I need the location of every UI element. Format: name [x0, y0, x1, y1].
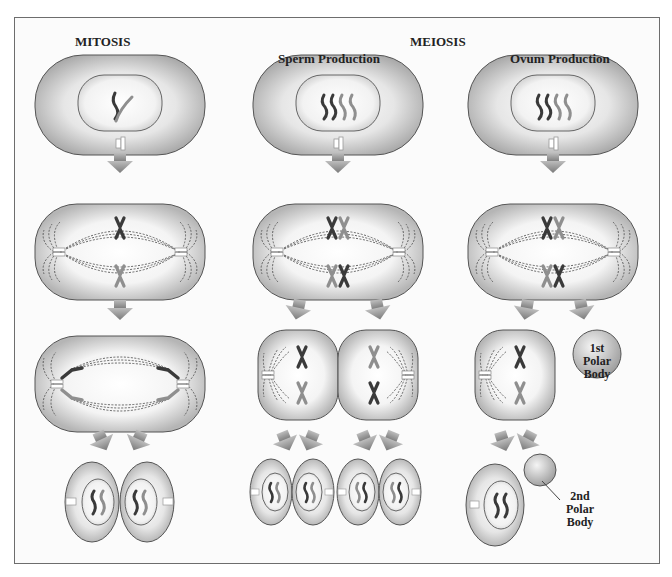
- arrow-down-icon: [283, 297, 313, 322]
- arrow-down-icon: [270, 427, 302, 455]
- mitosis-daughter-cell: [120, 462, 174, 542]
- arrow-down-icon: [512, 298, 541, 322]
- label-line: Body: [580, 368, 614, 381]
- arrow-down-icon: [325, 153, 351, 173]
- ovum-cell: [466, 464, 524, 546]
- second-polar-body-label: 2nd Polar Body: [560, 490, 600, 529]
- meiosis-heading: MEIOSIS: [410, 34, 466, 50]
- mitosis-daughter-cell: [65, 462, 119, 542]
- arrow-down-icon: [107, 153, 133, 173]
- ovum-production-heading: Ovum Production: [510, 51, 610, 67]
- sperm-meiosis2-cell-left: [258, 330, 338, 420]
- spermatid-cell: [337, 459, 379, 525]
- spermatid-cell: [250, 459, 292, 525]
- arrow-down-icon: [363, 297, 393, 322]
- second-polar-body: [524, 454, 556, 486]
- mitosis-column: [35, 55, 205, 542]
- arrow-down-icon: [374, 427, 406, 455]
- arrow-down-icon: [488, 428, 519, 455]
- spermatid-cell: [379, 459, 421, 525]
- ovum-production-column: [466, 55, 638, 546]
- mitosis-interphase-cell: [35, 55, 205, 155]
- ovum-metaphase-cell: [468, 204, 638, 300]
- sperm-meiosis2-cell-right: [338, 330, 418, 420]
- sperm-production-heading: Sperm Production: [278, 51, 380, 67]
- label-line: Body: [560, 516, 600, 529]
- mitosis-anaphase-cell: [35, 336, 205, 432]
- first-polar-body-label: 1st Polar Body: [580, 342, 614, 381]
- arrow-down-icon: [294, 427, 326, 455]
- mitosis-heading: MITOSIS: [75, 34, 130, 50]
- mitosis-metaphase-cell: [35, 204, 205, 300]
- arrow-down-icon: [107, 300, 133, 320]
- sperm-interphase-cell: [253, 55, 423, 155]
- arrow-down-icon: [511, 426, 543, 456]
- arrow-down-icon: [350, 427, 382, 455]
- arrow-down-icon: [540, 153, 566, 173]
- spermatid-cell: [292, 459, 334, 525]
- secondary-oocyte-cell: [475, 330, 555, 420]
- sperm-production-column: [250, 55, 423, 525]
- ovum-interphase-cell: [468, 55, 638, 155]
- arrow-down-icon: [567, 297, 597, 322]
- polar-body-pointer-line: [542, 481, 560, 500]
- sperm-metaphase-cell: [253, 204, 423, 300]
